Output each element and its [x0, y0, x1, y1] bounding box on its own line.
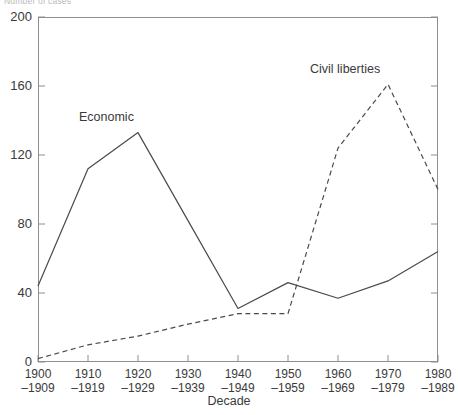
y-tick-label: 160	[2, 79, 32, 92]
x-tick-label-start-year: 1980	[408, 367, 458, 381]
series-label-economic: Economic	[79, 110, 134, 124]
y-tick-label: 200	[2, 10, 32, 23]
series-label-civil-liberties: Civil liberties	[310, 62, 380, 76]
plot-graphics	[0, 0, 458, 415]
civil-liberties-series-line	[38, 84, 438, 358]
line-chart-figure: Number of cases 04080120160200 1900–1909…	[0, 0, 458, 415]
x-tick-label: 1980–1989	[408, 367, 458, 395]
y-tick-label: 40	[2, 286, 32, 299]
chart-svg	[0, 0, 458, 415]
x-tick-label-end-year: –1989	[408, 381, 458, 395]
economic-series-line	[38, 133, 438, 309]
x-axis-title: Decade	[0, 394, 458, 408]
y-tick-label: 120	[2, 148, 32, 161]
y-tick-label: 80	[2, 217, 32, 230]
